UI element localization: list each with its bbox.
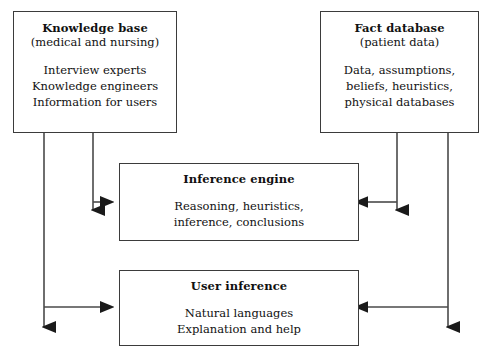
node-knowledge-base-body: Interview experts Knowledge engineers In… xyxy=(14,63,176,111)
node-fact-database-body-line: physical databases xyxy=(321,95,478,111)
node-knowledge-base-body-line: Information for users xyxy=(14,95,176,111)
node-knowledge-base: Knowledge base (medical and nursing) Int… xyxy=(13,11,177,133)
node-fact-database: Fact database (patient data) Data, assum… xyxy=(320,11,479,133)
node-fact-database-body-line: beliefs, heuristics, xyxy=(321,79,478,95)
node-fact-database-body: Data, assumptions, beliefs, heuristics, … xyxy=(321,63,478,111)
node-inference-engine-title: Inference engine xyxy=(120,172,358,186)
node-knowledge-base-title: Knowledge base xyxy=(14,21,176,35)
node-fact-database-body-line: Data, assumptions, xyxy=(321,63,478,79)
node-inference-engine-body-line: Reasoning, heuristics, xyxy=(120,199,358,215)
expert-system-architecture-diagram: Knowledge base (medical and nursing) Int… xyxy=(0,0,494,356)
node-inference-engine: Inference engine Reasoning, heuristics, … xyxy=(119,163,359,241)
node-user-inference: User inference Natural languages Explana… xyxy=(119,270,359,346)
node-user-inference-body-line: Explanation and help xyxy=(120,322,358,338)
node-fact-database-title: Fact database xyxy=(321,21,478,35)
node-inference-engine-body: Reasoning, heuristics, inference, conclu… xyxy=(120,199,358,231)
node-inference-engine-body-line: inference, conclusions xyxy=(120,215,358,231)
node-knowledge-base-subtitle: (medical and nursing) xyxy=(14,35,176,50)
node-knowledge-base-body-line: Interview experts xyxy=(14,63,176,79)
node-user-inference-body-line: Natural languages xyxy=(120,306,358,322)
node-user-inference-body: Natural languages Explanation and help xyxy=(120,306,358,338)
node-knowledge-base-body-line: Knowledge engineers xyxy=(14,79,176,95)
node-fact-database-subtitle: (patient data) xyxy=(321,35,478,50)
node-user-inference-title: User inference xyxy=(120,279,358,293)
